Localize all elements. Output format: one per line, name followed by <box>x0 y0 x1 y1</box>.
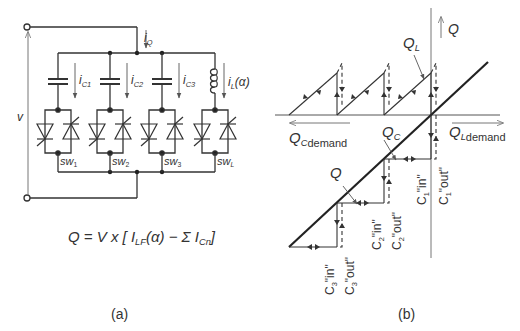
terminal-bottom <box>24 195 30 201</box>
qc-demand-label: QCdemand <box>289 130 347 149</box>
formula: Q = V x [ ILF(α) − Σ ICn] <box>68 229 215 248</box>
sw2-label: sw2 <box>112 156 129 169</box>
circuit-schematic <box>24 24 236 201</box>
qc-label: QC <box>382 124 400 143</box>
q-axis-label: Q <box>448 22 459 36</box>
q-line-label: Q <box>330 165 342 180</box>
il-label: iL(α) <box>228 76 250 90</box>
caption-b: (b) <box>398 306 415 322</box>
c1-in-label: C1"in" <box>416 174 430 205</box>
voltage-label: v <box>17 111 23 123</box>
ic3-label: iC3 <box>183 74 195 88</box>
sw3-label: sw3 <box>164 156 181 169</box>
terminal-top <box>24 24 30 30</box>
ic1-label: iC1 <box>79 74 91 88</box>
diagram-canvas <box>0 0 520 331</box>
c3-in-label: C3"in" <box>324 264 338 295</box>
c2-in-label: C2"in" <box>371 219 385 250</box>
iq-label: iQ <box>144 32 152 46</box>
c3-out-label: C3"out" <box>344 257 358 295</box>
caption-a: (a) <box>111 306 128 322</box>
sw1-label: sw1 <box>60 156 77 169</box>
c1-out-label: C1"out" <box>438 167 452 205</box>
swl-label: swL <box>217 156 234 169</box>
ql-demand-label: QLdemand <box>449 124 506 143</box>
c2-out-label: C2"out" <box>391 212 405 250</box>
ic2-label: iC2 <box>131 74 143 88</box>
ql-label: QL <box>403 35 420 54</box>
